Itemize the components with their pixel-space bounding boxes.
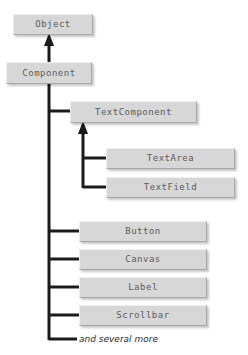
class-box-label[interactable]: Label <box>79 277 207 298</box>
class-box-textcomponent[interactable]: TextComponent <box>70 101 197 123</box>
class-box-textarea[interactable]: TextArea <box>106 148 235 169</box>
class-box-scrollbar[interactable]: Scrollbar <box>79 305 207 326</box>
class-box-object[interactable]: Object <box>13 14 93 35</box>
textcomponent-trunk <box>78 121 88 188</box>
and-several-more-note: and several more <box>79 334 158 344</box>
class-box-textfield[interactable]: TextField <box>106 177 235 198</box>
class-box-component[interactable]: Component <box>6 62 92 84</box>
class-box-canvas[interactable]: Canvas <box>79 249 207 270</box>
class-hierarchy-diagram: Object Component TextComponent TextArea … <box>0 0 248 355</box>
class-box-button[interactable]: Button <box>79 221 207 242</box>
edge-component-to-object <box>44 33 54 62</box>
